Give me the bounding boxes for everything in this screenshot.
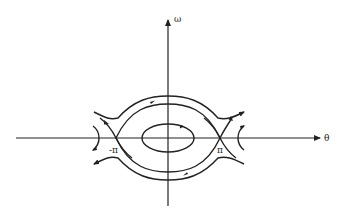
neg-pi-label: -π	[109, 145, 118, 155]
pi-label: π	[217, 145, 223, 155]
theta-axis-label: θ	[324, 133, 329, 143]
right-saddle-outgoing-up	[220, 118, 232, 138]
running-orbit-upper	[94, 96, 244, 119]
phase-portrait-diagram: θ ω -π π	[0, 0, 344, 216]
running-orbit-lower	[94, 157, 244, 180]
lower-orbit-arrow-icon	[183, 172, 188, 176]
left-saddle-incoming	[100, 118, 116, 138]
upper-orbit-arrow-icon	[150, 101, 155, 105]
left-saddle-outgoing	[116, 138, 132, 158]
right-saddle-incoming	[204, 118, 220, 138]
omega-axis-label: ω	[174, 14, 181, 24]
left-incoming-arrow-icon	[104, 120, 109, 125]
